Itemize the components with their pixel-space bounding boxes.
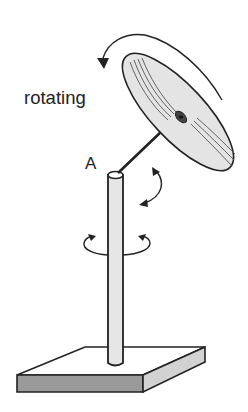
vertical-pole [108,172,123,366]
tilt-arrow [139,167,161,207]
point-a-label: A [85,154,97,173]
rotating-label: rotating [24,87,86,108]
connecting-rod [118,130,163,173]
gyroscope-diagram: rotating A [0,0,248,412]
